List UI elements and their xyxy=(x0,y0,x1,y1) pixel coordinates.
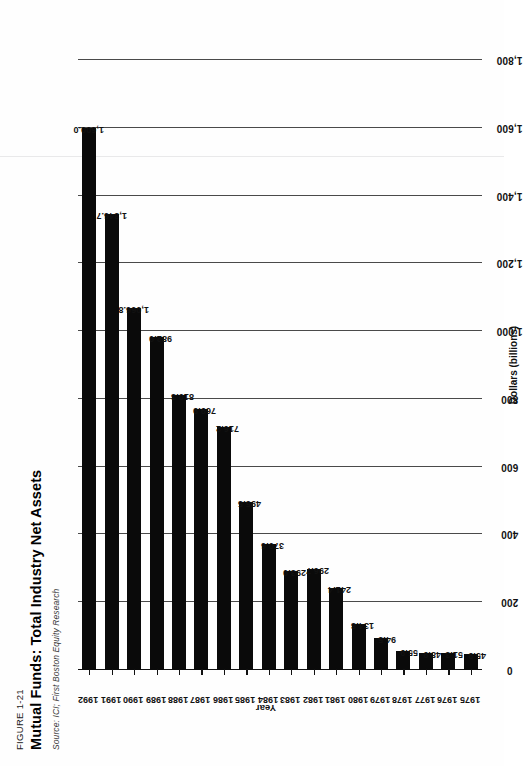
bar-value-label-1987: 769.9 xyxy=(193,406,216,416)
bar-value-label-1975: 45.9 xyxy=(468,651,486,661)
year-label-1987: 1987 xyxy=(190,695,210,705)
chart-plot-area: 45.951.348.955.994.5134.8241.4296.7293.0… xyxy=(78,60,482,670)
bar-1987 xyxy=(194,409,208,670)
category-tick-1991 xyxy=(112,669,113,675)
category-tick-1986 xyxy=(224,669,225,675)
bar-value-label-1981: 241.4 xyxy=(328,585,351,595)
value-tick-1400: 1,400 xyxy=(496,190,522,201)
bar-1980 xyxy=(352,624,366,670)
gridline-1400 xyxy=(78,195,482,196)
bar-1990 xyxy=(127,308,141,670)
bar-value-label-1979: 94.5 xyxy=(378,635,396,645)
category-tick-1990 xyxy=(134,669,135,675)
bar-value-label-1986: 716.2 xyxy=(216,424,239,434)
bar-1983 xyxy=(284,571,298,670)
bar-1991 xyxy=(105,214,119,670)
year-label-1985: 1985 xyxy=(235,695,255,705)
year-label-1981: 1981 xyxy=(325,695,345,705)
category-tick-1979 xyxy=(381,669,382,675)
year-label-1976: 1976 xyxy=(437,695,457,705)
value-tick-0: 0 xyxy=(507,665,513,676)
bar-value-label-1976: 51.3 xyxy=(445,650,463,660)
figure-number: FIGURE 1-21 xyxy=(14,320,25,750)
bar-value-label-1977: 48.9 xyxy=(423,650,441,660)
bar-1981 xyxy=(329,588,343,670)
year-label-1990: 1990 xyxy=(123,695,143,705)
bar-1984 xyxy=(262,544,276,670)
category-tick-1984 xyxy=(269,669,270,675)
category-tick-1987 xyxy=(201,669,202,675)
category-tick-1988 xyxy=(179,669,180,675)
bar-1988 xyxy=(172,395,186,670)
value-tick-600: 600 xyxy=(501,461,518,472)
bar-value-label-1988: 810.3 xyxy=(171,392,194,402)
category-tick-1980 xyxy=(359,669,360,675)
year-label-1986: 1986 xyxy=(213,695,233,705)
bar-value-label-1991: 1,346.7 xyxy=(96,211,127,221)
gridline-1200 xyxy=(78,262,482,263)
year-label-1977: 1977 xyxy=(415,695,435,705)
bar-value-label-1978: 55.9 xyxy=(401,648,419,658)
figure-caption: FIGURE 1-21 Mutual Funds: Total Industry… xyxy=(14,320,61,750)
figure-source: Source: ICI; First Boston Equity Researc… xyxy=(51,320,61,750)
year-label-1979: 1979 xyxy=(370,695,390,705)
category-tick-1981 xyxy=(336,669,337,675)
gridline-1600 xyxy=(78,127,482,128)
bar-value-label-1982: 296.7 xyxy=(306,566,329,576)
year-label-1992: 1992 xyxy=(78,695,98,705)
bar-1985 xyxy=(239,502,253,670)
year-label-1988: 1988 xyxy=(168,695,188,705)
year-label-1983: 1983 xyxy=(280,695,300,705)
value-tick-200: 200 xyxy=(501,597,518,608)
bar-1986 xyxy=(217,427,231,670)
bar-value-label-1984: 370.6 xyxy=(261,541,284,551)
bar-value-label-1985: 495.5 xyxy=(238,499,261,509)
category-tick-1983 xyxy=(291,669,292,675)
bar-value-label-1980: 134.8 xyxy=(351,621,374,631)
bar-1992 xyxy=(82,128,96,670)
category-axis-title: Year xyxy=(255,703,275,714)
figure-title: Mutual Funds: Total Industry Net Assets xyxy=(28,320,44,750)
category-tick-1977 xyxy=(426,669,427,675)
category-tick-1975 xyxy=(471,669,472,675)
bar-value-label-1989: 982.0 xyxy=(149,334,172,344)
gridline-1800 xyxy=(78,59,482,60)
category-tick-1985 xyxy=(246,669,247,675)
year-label-1980: 1980 xyxy=(347,695,367,705)
year-label-1982: 1982 xyxy=(302,695,322,705)
year-label-1989: 1989 xyxy=(145,695,165,705)
value-axis-title: Dollars (billions) xyxy=(508,326,519,404)
category-tick-1989 xyxy=(157,669,158,675)
category-tick-1982 xyxy=(314,669,315,675)
category-tick-1992 xyxy=(89,669,90,675)
year-label-1991: 1991 xyxy=(100,695,120,705)
value-tick-1600: 1,600 xyxy=(496,122,522,133)
year-label-1978: 1978 xyxy=(392,695,412,705)
value-tick-400: 400 xyxy=(501,529,518,540)
value-tick-1800: 1,800 xyxy=(496,55,522,66)
category-tick-1976 xyxy=(448,669,449,675)
bar-1982 xyxy=(307,569,321,670)
year-label-1975: 1975 xyxy=(460,695,480,705)
category-tick-1978 xyxy=(403,669,404,675)
bar-value-label-1990: 1,066.8 xyxy=(118,305,149,315)
value-tick-1200: 1,200 xyxy=(496,258,522,269)
bar-1989 xyxy=(150,337,164,670)
bar-value-label-1992: 1,600.0 xyxy=(73,125,104,135)
bar-value-label-1983: 293.0 xyxy=(283,568,306,578)
